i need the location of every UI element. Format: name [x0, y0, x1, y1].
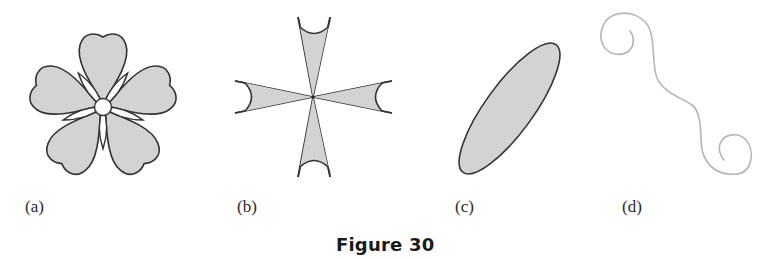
figure-caption: Figure 30 — [336, 234, 434, 256]
panel-label-b: (b) — [237, 197, 257, 217]
figure-stage: (a) (b) (c) (d) Figure 30 — [0, 0, 781, 258]
panel-label-a: (a) — [25, 197, 44, 217]
ellipse-shape — [444, 30, 576, 186]
panel-label-d: (d) — [622, 197, 642, 217]
panel-label-c: (c) — [455, 197, 474, 217]
figure-graphics — [0, 0, 781, 258]
flower-shape — [26, 34, 179, 180]
cross-shape — [235, 17, 392, 177]
spiral-curve — [601, 13, 751, 174]
